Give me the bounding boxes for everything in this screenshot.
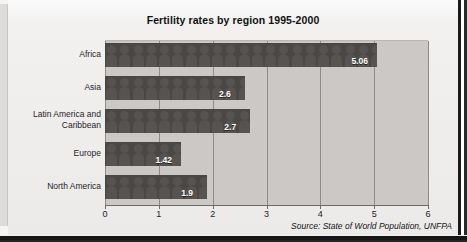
scan-edge-left — [0, 4, 8, 226]
person-icon — [370, 43, 377, 67]
person-icon — [105, 109, 118, 133]
scan-edge-bottom — [0, 235, 467, 242]
person-icon — [105, 142, 118, 166]
x-axis-tick-label: 2 — [198, 209, 228, 219]
person-icon — [171, 109, 184, 133]
x-axis-tick-label: 6 — [413, 209, 443, 219]
pictogram-group — [105, 43, 377, 67]
person-icon — [171, 43, 184, 67]
person-icon — [132, 142, 145, 166]
person-icon — [132, 175, 145, 199]
bar-value-label: 2.7 — [224, 122, 236, 132]
person-icon — [211, 43, 224, 67]
y-axis-label: Latin America andCaribbean — [9, 109, 101, 131]
gridline — [428, 41, 429, 206]
person-icon — [291, 43, 304, 67]
y-axis-label: Asia — [9, 82, 101, 93]
person-icon — [171, 142, 181, 166]
person-icon — [330, 43, 343, 67]
plot-area: 5.062.62.71.421.9 — [105, 40, 428, 205]
y-axis-label-line: Asia — [9, 82, 101, 93]
person-icon — [251, 43, 264, 67]
person-icon — [145, 76, 158, 100]
x-axis-tick-label: 5 — [359, 209, 389, 219]
scan-edge-right — [458, 0, 467, 242]
y-axis-label: Africa — [9, 49, 101, 60]
bar-value-label: 1.42 — [155, 155, 172, 165]
person-icon — [158, 43, 171, 67]
person-icon — [145, 43, 158, 67]
person-icon — [158, 175, 171, 199]
person-icon — [105, 175, 118, 199]
person-icon — [132, 109, 145, 133]
bar-row: 1.9 — [105, 175, 428, 199]
y-axis-label-line: North America — [9, 181, 101, 192]
person-icon — [145, 175, 158, 199]
person-icon — [118, 43, 131, 67]
source-note: Source: State of World Population, UNFPA — [291, 221, 452, 231]
person-icon — [238, 76, 245, 100]
person-icon — [238, 43, 251, 67]
bar-row: 5.06 — [105, 43, 428, 67]
y-axis-label: North America — [9, 181, 101, 192]
y-axis-label-line: Europe — [9, 148, 101, 159]
person-icon — [211, 109, 224, 133]
x-axis-tick-label: 3 — [252, 209, 282, 219]
x-axis-tick-label: 0 — [90, 209, 120, 219]
y-axis-label: Europe — [9, 148, 101, 159]
person-icon — [118, 76, 131, 100]
person-icon — [118, 175, 131, 199]
person-icon — [105, 43, 118, 67]
person-icon — [224, 43, 237, 67]
chart-figure: Fertility rates by region 1995-2000 5.06… — [8, 0, 458, 236]
person-icon — [264, 43, 277, 67]
person-icon — [132, 43, 145, 67]
person-icon — [105, 76, 118, 100]
person-icon — [158, 76, 171, 100]
bar-row: 2.6 — [105, 76, 428, 100]
person-icon — [198, 76, 211, 100]
person-icon — [185, 109, 198, 133]
person-icon — [185, 76, 198, 100]
bar[interactable] — [105, 43, 377, 67]
screenshot-page: Fertility rates by region 1995-2000 5.06… — [0, 0, 467, 242]
person-icon — [145, 109, 158, 133]
person-icon — [317, 43, 330, 67]
person-icon — [158, 109, 171, 133]
x-axis-tick-label: 4 — [305, 209, 335, 219]
person-icon — [118, 109, 131, 133]
page-title: Fertility rates by region 1995-2000 — [8, 14, 458, 26]
bar-value-label: 5.06 — [351, 56, 368, 66]
person-icon — [304, 43, 317, 67]
y-axis-label-line: Africa — [9, 49, 101, 60]
y-axis-label-line: Latin America and — [9, 109, 101, 120]
person-icon — [198, 43, 211, 67]
person-icon — [185, 43, 198, 67]
person-icon — [118, 142, 131, 166]
person-icon — [132, 76, 145, 100]
person-icon — [238, 109, 251, 133]
bar-value-label: 1.9 — [181, 188, 193, 198]
person-icon — [198, 175, 208, 199]
person-icon — [171, 76, 184, 100]
bar-value-label: 2.6 — [219, 89, 231, 99]
person-icon — [277, 43, 290, 67]
bar-row: 2.7 — [105, 109, 428, 133]
y-axis-label-line: Caribbean — [9, 120, 101, 131]
bar-row: 1.42 — [105, 142, 428, 166]
person-icon — [198, 109, 211, 133]
x-axis-tick-label: 1 — [144, 209, 174, 219]
